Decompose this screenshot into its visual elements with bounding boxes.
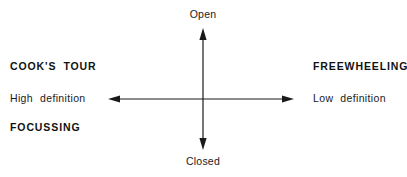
axis-label-closed: Closed	[186, 156, 220, 167]
axis-label-open: Open	[190, 9, 217, 20]
label-cooks-tour-word1: COOK'S	[10, 60, 56, 72]
axes-graphic	[0, 0, 407, 177]
arrow-right-icon	[282, 95, 294, 102]
diagram-canvas: Open Closed COOK'STOUR Highdefinition FO…	[0, 0, 407, 177]
label-cooks-tour: COOK'STOUR	[10, 61, 97, 72]
arrow-up-icon	[199, 28, 206, 40]
label-low-definition-word1: Low	[313, 92, 333, 104]
label-high-definition-word2: definition	[40, 92, 86, 104]
label-freewheeling: FREEWHEELING	[313, 61, 407, 72]
arrow-left-icon	[108, 95, 120, 102]
axis-label-high-definition: Highdefinition	[10, 93, 86, 104]
arrow-down-icon	[199, 138, 206, 150]
axis-label-low-definition: Lowdefinition	[313, 93, 386, 104]
label-low-definition-word2: definition	[340, 92, 386, 104]
label-cooks-tour-word2: TOUR	[63, 60, 96, 72]
label-focussing: FOCUSSING	[10, 122, 81, 133]
label-high-definition-word1: High	[10, 92, 33, 104]
